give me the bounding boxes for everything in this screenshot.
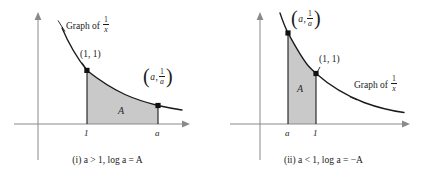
point-marker-one-one [313, 71, 318, 76]
fraction-denominator: a [307, 18, 313, 27]
point-label-a-one-over-a: ( a , 1a ) [291, 10, 321, 28]
y-axis [257, 12, 264, 160]
fraction-numerator: 1 [159, 68, 165, 76]
fraction-denominator: a [159, 76, 165, 85]
fraction-one-over-a: 1a [307, 10, 313, 28]
x-axis [230, 121, 410, 128]
curve-label-prefix: Graph of [66, 21, 102, 31]
figure-root: Graph of 1x (1, 1) ( a , 1a ) A 1 a (i) … [0, 0, 431, 177]
leader-line-curve-label [58, 21, 65, 32]
x-tick-label-1: 1 [313, 128, 318, 138]
point-var-a: a [298, 14, 303, 24]
x-tick-label-1: 1 [84, 128, 89, 138]
fraction-one-over-x: 1x [391, 75, 397, 93]
curve-label-graph-of: Graph of 1x [66, 16, 110, 34]
panel-caption-i: (i) a > 1, log a = A [0, 155, 215, 165]
panel-caption-ii: (ii) a < 1, log a = −A [216, 155, 431, 165]
area-label: A [118, 105, 124, 116]
panel-case-i: Graph of 1x (1, 1) ( a , 1a ) A 1 a (i) … [0, 0, 215, 177]
y-axis [35, 12, 42, 160]
point-label-one-one: (1, 1) [80, 50, 101, 60]
point-comma: , [303, 14, 305, 24]
point-marker-a-one-over-a [285, 30, 290, 35]
fraction-denominator: x [391, 83, 397, 92]
point-var-a: a [150, 72, 155, 82]
point-marker-a-one-over-a [155, 103, 160, 108]
fraction-numerator: 1 [391, 75, 397, 83]
curve-label-prefix: Graph of [354, 80, 390, 90]
shaded-area-region [288, 33, 316, 124]
point-comma: , [155, 72, 157, 82]
fraction-one-over-a: 1a [159, 68, 165, 86]
point-label-a-one-over-a: ( a , 1a ) [143, 68, 173, 86]
fraction-numerator: 1 [307, 10, 313, 18]
panel-case-ii: ( a , 1a ) (1, 1) Graph of 1x A a 1 (ii)… [216, 0, 431, 177]
fraction-numerator: 1 [103, 16, 109, 24]
point-marker-one-one [84, 68, 89, 73]
leader-line-point-one-one [318, 67, 321, 72]
x-tick-label-a: a [155, 128, 160, 138]
x-tick-label-a: a [285, 128, 290, 138]
fraction-denominator: x [103, 24, 109, 33]
fraction-one-over-x: 1x [103, 16, 109, 34]
panel-ii-plot [216, 0, 431, 177]
area-label: A [297, 83, 303, 94]
point-label-one-one: (1, 1) [319, 55, 340, 65]
curve-label-graph-of: Graph of 1x [354, 75, 398, 93]
